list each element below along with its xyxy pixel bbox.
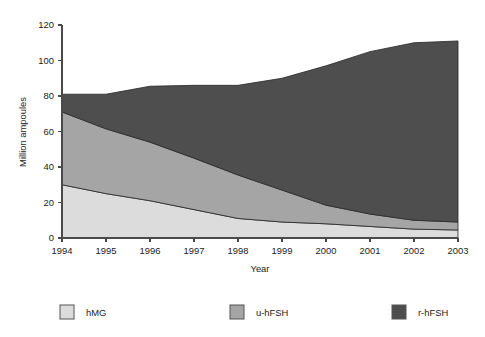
y-axis-ticks: 020406080100120 <box>38 19 62 243</box>
chart-legend: hMGu-hFSHr-hFSH <box>60 305 448 319</box>
legend-swatch-u-hfsh <box>230 305 244 319</box>
legend-label-u-hfsh: u-hFSH <box>256 307 288 318</box>
y-tick-label: 120 <box>38 19 54 30</box>
legend-swatch-r-hfsh <box>392 305 406 319</box>
legend-label-r-hfsh: r-hFSH <box>418 307 448 318</box>
y-tick-label: 0 <box>49 232 54 243</box>
x-axis-ticks: 1994199519961997199819992000200120022003 <box>52 238 469 256</box>
x-tick-label: 1998 <box>228 245 249 256</box>
x-tick-label: 2001 <box>360 245 381 256</box>
x-tick-label: 2000 <box>316 245 337 256</box>
y-tick-label: 100 <box>38 55 54 66</box>
legend-label-hmg: hMG <box>86 307 106 318</box>
legend-swatch-hmg <box>60 305 74 319</box>
stacked-area-chart: 020406080100120 199419951996199719981999… <box>0 0 485 337</box>
y-axis-title: Million ampoules <box>17 97 28 167</box>
x-tick-label: 2003 <box>448 245 469 256</box>
x-tick-label: 1997 <box>184 245 205 256</box>
x-tick-label: 1996 <box>140 245 161 256</box>
y-tick-label: 60 <box>44 126 54 137</box>
chart-figure: 020406080100120 199419951996199719981999… <box>0 0 485 337</box>
x-axis-title: Year <box>251 263 270 274</box>
x-tick-label: 1995 <box>96 245 117 256</box>
x-tick-label: 2002 <box>404 245 425 256</box>
x-tick-label: 1994 <box>52 245 73 256</box>
y-tick-label: 40 <box>44 161 54 172</box>
x-tick-label: 1999 <box>272 245 293 256</box>
y-tick-label: 20 <box>44 197 54 208</box>
y-tick-label: 80 <box>44 90 54 101</box>
